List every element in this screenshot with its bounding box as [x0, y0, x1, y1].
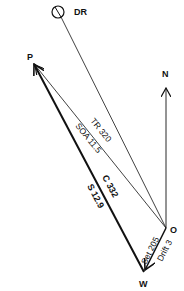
- o-label: O: [170, 225, 177, 235]
- dr-label: DR: [74, 7, 87, 17]
- course-line: [34, 64, 144, 272]
- dr-position-symbol: [52, 6, 64, 18]
- vector-diagram: DR P N O W TR 320 SOA 11.5 C 332 S 12.9 …: [0, 0, 184, 291]
- w-label: W: [139, 279, 148, 289]
- n-label: N: [162, 69, 169, 79]
- p-label: P: [27, 52, 33, 62]
